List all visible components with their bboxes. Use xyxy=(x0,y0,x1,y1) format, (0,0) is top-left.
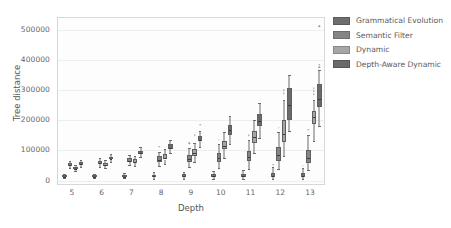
box-plot xyxy=(301,18,306,186)
whisker-upper xyxy=(229,116,230,126)
median-line xyxy=(188,159,191,160)
box-plot xyxy=(282,18,287,186)
box-plot xyxy=(217,18,222,186)
cap-lower xyxy=(153,179,156,180)
legend-swatch xyxy=(333,60,350,68)
cap-upper xyxy=(153,172,156,173)
x-axis-tick: 6 xyxy=(99,188,104,197)
cap-upper xyxy=(123,173,126,174)
y-axis-tick: 100000 xyxy=(21,145,50,154)
outlier-point xyxy=(189,143,190,144)
box-plot xyxy=(68,18,73,186)
cap-upper xyxy=(139,147,142,148)
outlier-point xyxy=(283,90,284,91)
legend-label: Grammatical Evolution xyxy=(356,16,443,25)
legend-item[interactable]: Grammatical Evolution xyxy=(333,16,449,25)
cap-upper xyxy=(272,167,275,168)
box-plot xyxy=(271,18,276,186)
box-plot xyxy=(122,18,127,186)
median-line xyxy=(139,153,142,154)
box xyxy=(211,174,216,177)
cap-lower xyxy=(123,178,126,179)
cap-upper xyxy=(199,131,202,132)
x-axis-tick: 9 xyxy=(189,188,194,197)
whisker-lower xyxy=(254,143,255,153)
cap-lower xyxy=(134,166,137,167)
outlier-point xyxy=(218,139,219,140)
outlier-point xyxy=(319,26,320,27)
cap-upper xyxy=(158,152,161,153)
box-plot xyxy=(211,18,216,186)
whisker-lower xyxy=(289,120,290,131)
whisker-lower xyxy=(319,107,320,126)
legend-swatch xyxy=(333,17,350,25)
y-axis-tick: 200000 xyxy=(21,115,50,124)
median-line xyxy=(288,105,291,106)
cap-lower xyxy=(248,169,251,170)
box xyxy=(241,174,246,177)
box-plot xyxy=(79,18,84,186)
cap-lower xyxy=(139,157,142,158)
median-line xyxy=(128,161,131,162)
legend-label: Semantic Filter xyxy=(356,31,413,40)
outlier-point xyxy=(159,146,160,147)
box xyxy=(168,144,173,149)
box xyxy=(271,173,276,178)
box-plot xyxy=(252,18,257,186)
cap-lower xyxy=(193,162,196,163)
box-plot xyxy=(127,18,132,186)
box-plot xyxy=(103,18,108,186)
box-plot xyxy=(163,18,168,186)
cap-upper xyxy=(229,116,232,117)
cap-upper xyxy=(134,156,137,157)
box xyxy=(217,153,222,161)
y-axis-tick-labels: 0100000200000300000400000500000 xyxy=(0,17,54,185)
cap-upper xyxy=(193,143,196,144)
legend-item[interactable]: Dynamic xyxy=(333,45,449,54)
cap-upper xyxy=(188,148,191,149)
median-line xyxy=(134,162,137,163)
cap-upper xyxy=(258,103,261,104)
median-line xyxy=(93,177,96,178)
box xyxy=(228,125,233,135)
x-axis-tick: 10 xyxy=(216,188,226,197)
cap-lower xyxy=(223,158,226,159)
cap-lower xyxy=(74,171,77,172)
y-axis-tick: 0 xyxy=(45,175,50,184)
box-plot xyxy=(222,18,227,186)
cap-lower xyxy=(63,178,66,179)
median-line xyxy=(164,158,167,159)
median-line xyxy=(199,140,202,141)
median-line xyxy=(242,176,245,177)
outlier-point xyxy=(313,94,314,95)
x-axis-tick: 7 xyxy=(129,188,134,197)
cap-upper xyxy=(318,70,321,71)
whisker-upper xyxy=(254,120,255,131)
box-plot xyxy=(198,18,203,186)
cap-upper xyxy=(183,172,186,173)
cap-lower xyxy=(183,179,186,180)
cap-upper xyxy=(302,168,305,169)
box xyxy=(187,155,192,162)
legend-item[interactable]: Semantic Filter xyxy=(333,31,449,40)
box xyxy=(62,175,67,177)
x-axis-tick: 5 xyxy=(69,188,74,197)
box-plot xyxy=(152,18,157,186)
cap-lower xyxy=(258,138,261,139)
box-plot xyxy=(73,18,78,186)
box-plot xyxy=(317,18,322,186)
whisker-upper xyxy=(278,132,279,147)
box xyxy=(68,163,73,165)
box xyxy=(282,120,287,142)
box xyxy=(79,162,84,164)
box xyxy=(92,175,97,177)
figure: Tree distance 01000002000003000004000005… xyxy=(0,0,451,228)
median-line xyxy=(158,160,161,161)
cap-upper xyxy=(164,149,167,150)
box-plot xyxy=(109,18,114,186)
cap-lower xyxy=(302,179,305,180)
legend-item[interactable]: Depth-Aware Dynamic xyxy=(333,60,449,69)
x-axis-tick: 11 xyxy=(246,188,256,197)
whisker-lower xyxy=(308,163,309,171)
median-line xyxy=(99,163,102,164)
